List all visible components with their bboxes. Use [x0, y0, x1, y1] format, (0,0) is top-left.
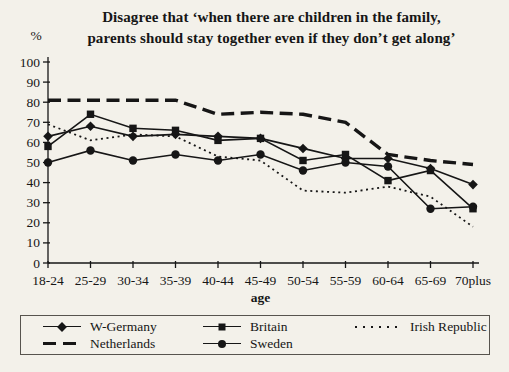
x-tick-label: 70plus [455, 273, 491, 288]
y-tick-label: 40 [27, 175, 41, 190]
x-tick-label: 40-44 [202, 273, 234, 288]
legend-label-britain: Britain [250, 319, 288, 335]
marker-circle-sweden [384, 162, 392, 170]
britain-line-sample [203, 326, 241, 327]
w-germany-line-sample [43, 326, 81, 327]
marker-circle-sweden [214, 156, 222, 164]
square-marker-icon [219, 324, 226, 331]
legend-box: W-Germany Britain Irish Republic Netherl… [20, 315, 490, 355]
netherlands-dashed-line-sample [43, 342, 81, 346]
y-tick-label: 100 [20, 55, 41, 70]
marker-diamond-w-germany [128, 132, 138, 142]
marker-square-britain [87, 111, 94, 118]
y-tick-label: 30 [27, 195, 41, 210]
marker-square-britain [257, 135, 264, 142]
x-tick-label: 60-64 [372, 273, 404, 288]
marker-square-britain [384, 177, 391, 184]
circle-marker-icon [218, 340, 226, 348]
diamond-marker-icon [57, 322, 67, 332]
legend-item-sweden: Sweden [203, 336, 355, 352]
x-tick-label: 30-34 [117, 273, 149, 288]
x-tick-label: 45-49 [245, 273, 277, 288]
x-tick-label: 55-59 [330, 273, 362, 288]
marker-circle-sweden [341, 158, 349, 166]
x-tick-label: 18-24 [32, 273, 64, 288]
marker-diamond-w-germany [43, 132, 53, 142]
marker-diamond-w-germany [468, 180, 478, 190]
marker-square-britain [427, 167, 434, 174]
marker-square-britain [172, 127, 179, 134]
y-axis-unit-label: % [30, 28, 41, 43]
legend-label-netherlands: Netherlands [90, 336, 155, 352]
x-axis-title: age [251, 290, 271, 305]
legend-item-netherlands: Netherlands [43, 336, 203, 352]
y-tick-label: 80 [27, 95, 41, 110]
sweden-line-sample [203, 343, 241, 344]
y-tick-label: 0 [33, 256, 40, 271]
marker-circle-sweden [86, 146, 94, 154]
marker-circle-sweden [44, 158, 52, 166]
figure-container: Disagree that ‘when there are children i… [0, 0, 509, 372]
marker-circle-sweden [426, 205, 434, 213]
y-tick-label: 10 [27, 235, 41, 250]
x-tick-label: 25-29 [75, 273, 107, 288]
marker-square-britain [342, 151, 349, 158]
marker-square-britain [129, 125, 136, 132]
x-tick-label: 50-54 [287, 273, 319, 288]
legend-item-w-germany: W-Germany [43, 319, 203, 335]
irish-republic-dotted-line-sample [355, 326, 401, 328]
legend-item-irish-republic: Irish Republic [355, 319, 489, 335]
marker-circle-sweden [256, 150, 264, 158]
marker-diamond-w-germany [298, 144, 308, 154]
marker-circle-sweden [299, 166, 307, 174]
marker-circle-sweden [129, 156, 137, 164]
marker-square-britain [44, 143, 51, 150]
y-tick-label: 90 [27, 75, 41, 90]
legend-item-britain: Britain [203, 319, 355, 335]
marker-circle-sweden [171, 150, 179, 158]
y-tick-label: 70 [27, 115, 41, 130]
marker-diamond-w-germany [86, 122, 96, 132]
series-line-britain [48, 114, 473, 208]
legend-label-w-germany: W-Germany [90, 319, 157, 335]
marker-square-britain [299, 157, 306, 164]
y-tick-label: 60 [27, 135, 41, 150]
x-tick-label: 65-69 [415, 273, 447, 288]
legend-label-irish-republic: Irish Republic [410, 319, 487, 335]
marker-circle-sweden [469, 203, 477, 211]
line-chart: 010203040506070809010018-2425-2930-3435-… [0, 0, 509, 310]
legend-label-sweden: Sweden [250, 336, 293, 352]
marker-square-britain [214, 137, 221, 144]
x-tick-label: 35-39 [160, 273, 192, 288]
y-tick-label: 20 [27, 215, 41, 230]
y-tick-label: 50 [27, 155, 41, 170]
